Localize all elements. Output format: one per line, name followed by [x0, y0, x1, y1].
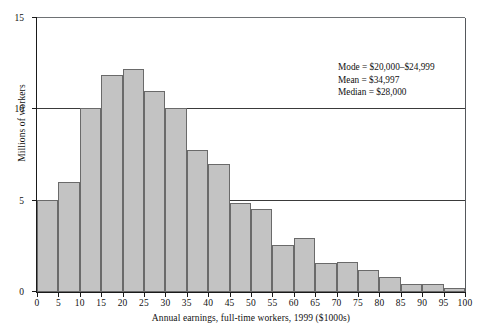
y-tick-label-0: 0	[19, 287, 24, 297]
x-tick-100	[465, 292, 466, 297]
bar-60-65	[294, 238, 315, 292]
bar-25-30	[144, 91, 165, 292]
x-tick-label-100: 100	[452, 298, 478, 308]
bar-10-15	[80, 108, 101, 292]
x-tick-75	[358, 292, 359, 297]
y-tick-10: 10	[32, 108, 37, 109]
bar-5-10	[58, 182, 79, 292]
bar-30-35	[165, 108, 186, 292]
y-tick-label-5: 5	[19, 196, 24, 206]
x-tick-10	[80, 292, 81, 297]
y-axis-label: Millions of workers	[17, 53, 27, 193]
bar-70-75	[337, 262, 358, 292]
x-tick-50	[251, 292, 252, 297]
annotation-mode: Mode = $20,000–$24,999	[338, 61, 435, 74]
bar-85-90	[401, 284, 422, 292]
bar-20-25	[123, 69, 144, 292]
bar-40-45	[208, 164, 229, 292]
y-tick-label-15: 15	[15, 13, 25, 23]
bar-80-85	[379, 277, 400, 292]
x-tick-20	[123, 292, 124, 297]
x-tick-65	[315, 292, 316, 297]
x-tick-25	[144, 292, 145, 297]
x-tick-55	[272, 292, 273, 297]
x-tick-85	[401, 292, 402, 297]
bar-series	[37, 18, 465, 292]
x-tick-0	[37, 292, 38, 297]
x-tick-80	[379, 292, 380, 297]
x-tick-90	[422, 292, 423, 297]
x-tick-70	[337, 292, 338, 297]
bar-55-60	[272, 245, 293, 292]
annotation-median: Median = $28,000	[338, 86, 435, 99]
bar-65-70	[315, 263, 336, 292]
y-tick-15: 15	[32, 17, 37, 18]
x-tick-60	[294, 292, 295, 297]
x-tick-45	[230, 292, 231, 297]
histogram-chart: 051015 051015202530354045505560657075808…	[0, 0, 487, 331]
bar-90-95	[422, 284, 443, 292]
bar-45-50	[230, 203, 251, 292]
annotation-mean: Mean = $34,997	[338, 74, 435, 87]
x-tick-30	[165, 292, 166, 297]
x-axis-label: Annual earnings, full-time workers, 1999…	[36, 313, 466, 323]
y-tick-5: 5	[32, 200, 37, 201]
x-tick-95	[444, 292, 445, 297]
bar-15-20	[101, 75, 122, 292]
bar-35-40	[187, 150, 208, 292]
x-tick-5	[58, 292, 59, 297]
statistics-annotation: Mode = $20,000–$24,999 Mean = $34,997 Me…	[338, 61, 435, 99]
bar-75-80	[358, 270, 379, 292]
bar-50-55	[251, 209, 272, 292]
x-tick-35	[187, 292, 188, 297]
bar-95-100	[444, 288, 465, 292]
x-tick-15	[101, 292, 102, 297]
bar-0-5	[37, 200, 58, 292]
plot-area: 051015 051015202530354045505560657075808…	[36, 18, 466, 293]
x-tick-40	[208, 292, 209, 297]
